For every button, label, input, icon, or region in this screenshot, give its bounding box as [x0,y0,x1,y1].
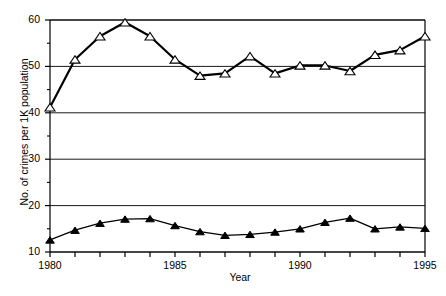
y-tick-label-20: 20 [14,200,40,211]
x-tick-label-1980: 1980 [30,260,70,271]
marker-filled-triangle-1980 [46,237,55,243]
x-tick-label-1990: 1990 [280,260,320,271]
series-line-1 [50,218,425,240]
marker-open-triangle-1995 [420,33,430,40]
marker-open-triangle-1980 [45,104,55,111]
y-tick-label-30: 30 [14,153,40,164]
marker-filled-triangle-1985 [171,222,180,228]
x-tick-label-1985: 1985 [155,260,195,271]
marker-filled-triangle-1981 [71,227,80,233]
y-tick-label-40: 40 [14,107,40,118]
y-tick-label-50: 50 [14,60,40,71]
y-tick-label-60: 60 [14,14,40,25]
y-tick-label-10: 10 [14,246,40,257]
x-tick-label-1995: 1995 [405,260,445,271]
series-line-0 [50,22,425,107]
x-axis-label: Year [150,271,330,283]
crime-rate-line-chart: No. of crimes per 1K population Year 102… [0,0,446,296]
plot-area [0,0,446,296]
marker-open-triangle-1988 [245,52,255,59]
